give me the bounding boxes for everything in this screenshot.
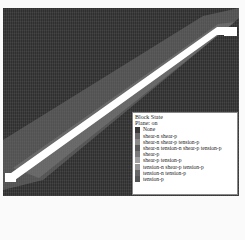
legend-items: None shear-n shear-p shear-n shear-p ten… — [135, 126, 235, 182]
fault-end-right — [224, 27, 237, 36]
legend-swatch — [135, 157, 140, 163]
legend-swatch — [135, 176, 140, 182]
legend-swatch — [135, 145, 140, 151]
fault-end-left — [5, 174, 16, 182]
legend-swatch — [135, 164, 140, 170]
legend-swatch — [135, 127, 140, 133]
legend-swatch — [135, 139, 140, 145]
legend-swatch — [135, 170, 140, 176]
legend-item: tension-p — [135, 176, 235, 182]
legend: Block State Plane: on None shear-n shear… — [132, 112, 238, 195]
legend-swatch — [135, 151, 140, 157]
legend-label: tension-p — [143, 176, 164, 182]
legend-swatch — [135, 133, 140, 139]
